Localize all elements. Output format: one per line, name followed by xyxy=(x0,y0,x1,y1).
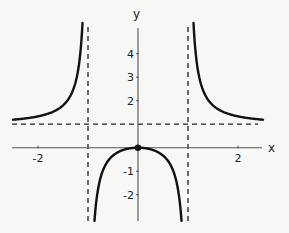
function-plot: -22432-1-2 x y xyxy=(0,0,289,233)
x-tick-label: -2 xyxy=(33,152,44,165)
y-axis-label: y xyxy=(133,7,140,21)
asymptotes xyxy=(12,27,258,221)
y-tick-label: -2 xyxy=(123,189,134,202)
y-tick-label: 3 xyxy=(127,71,134,84)
x-tick-label: 2 xyxy=(235,152,242,165)
y-tick-label: -1 xyxy=(123,165,134,178)
y-tick-label: 2 xyxy=(127,95,134,108)
right-branch-curve xyxy=(194,23,264,120)
y-tick-label: 4 xyxy=(127,48,134,61)
x-axis-label: x xyxy=(268,141,275,155)
left-branch-curve xyxy=(13,23,83,120)
local-max-point xyxy=(135,144,142,151)
